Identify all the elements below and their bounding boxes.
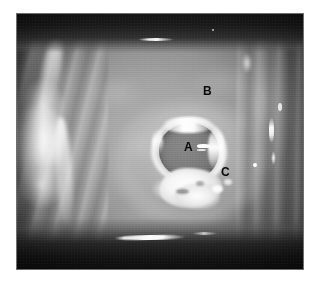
figure-caption bbox=[18, 274, 304, 281]
annotation-label-b: B bbox=[203, 85, 212, 97]
annotation-label-c: C bbox=[221, 166, 230, 178]
endoscopic-photograph: A B C bbox=[16, 13, 304, 270]
figure-page: A B C bbox=[0, 0, 321, 281]
film-grain-texture bbox=[16, 13, 304, 270]
annotation-label-a: A bbox=[184, 141, 193, 153]
